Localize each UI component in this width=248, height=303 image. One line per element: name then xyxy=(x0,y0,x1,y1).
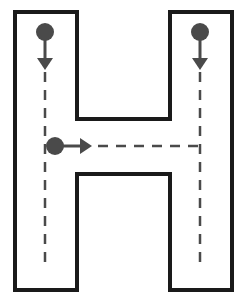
stroke-2-arrowhead-down-icon xyxy=(192,58,208,70)
stroke-3-crossbar xyxy=(46,137,200,155)
letter-h-tracing-diagram xyxy=(0,0,248,303)
stroke-3-arrowhead-right-icon xyxy=(80,138,92,154)
stroke-1-arrowhead-down-icon xyxy=(37,58,53,70)
